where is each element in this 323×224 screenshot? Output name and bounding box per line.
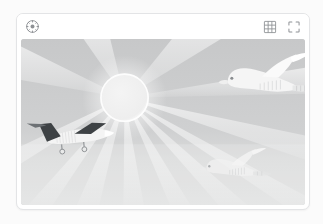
compass-icon[interactable] [25, 19, 40, 34]
bird-large-tail [293, 85, 305, 91]
scene-image [21, 39, 305, 205]
bird-small-eye [208, 165, 210, 167]
viewer-toolbar [17, 14, 309, 39]
image-viewport[interactable] [21, 39, 305, 205]
grid-icon[interactable] [262, 19, 277, 34]
image-viewer-card [16, 13, 310, 210]
toolbar-right-group [262, 19, 301, 34]
bird-large-eye [230, 77, 233, 80]
toolbar-left-group [25, 19, 40, 34]
fullscreen-icon[interactable] [286, 19, 301, 34]
screen [0, 0, 323, 224]
